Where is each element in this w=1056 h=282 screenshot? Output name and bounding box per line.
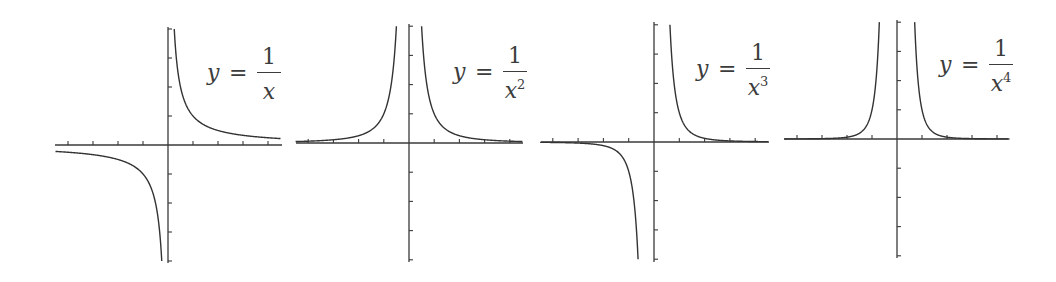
- curve-negative-branch: [296, 26, 397, 141]
- function-plots-figure: [0, 0, 1056, 282]
- fraction: 1 x2: [503, 43, 527, 103]
- curve-negative-branch: [56, 151, 162, 261]
- equals-sign: =: [961, 52, 979, 77]
- curve-negative-branch: [785, 22, 880, 139]
- denominator-base: x: [991, 71, 1003, 96]
- fraction-bar: [257, 72, 281, 73]
- denominator: x2: [503, 73, 527, 103]
- equals-sign: =: [718, 56, 736, 81]
- exponent: 3: [760, 74, 768, 89]
- plot-reciprocal-x: [55, 27, 282, 263]
- numerator: 1: [746, 40, 770, 66]
- exponent: 2: [517, 77, 525, 92]
- equals-sign: =: [229, 60, 247, 85]
- denominator-base: x: [263, 79, 275, 104]
- equation-lhs: y: [453, 59, 465, 84]
- denominator-base: x: [505, 78, 517, 103]
- exponent: 4: [1003, 70, 1011, 85]
- fraction: 1 x3: [746, 40, 770, 100]
- denominator: x: [257, 74, 281, 104]
- fraction-bar: [746, 68, 770, 69]
- numerator: 1: [503, 43, 527, 69]
- equation-lhs: y: [939, 52, 951, 77]
- numerator: 1: [257, 44, 281, 70]
- fraction: 1 x: [257, 44, 281, 104]
- denominator: x4: [989, 66, 1013, 96]
- equals-sign: =: [475, 59, 493, 84]
- fraction-bar: [989, 64, 1013, 65]
- numerator: 1: [989, 36, 1013, 62]
- equation-lhs: y: [207, 60, 219, 85]
- denominator-base: x: [748, 75, 760, 100]
- fraction: 1 x4: [989, 36, 1013, 96]
- curve-negative-branch: [540, 142, 638, 259]
- equation-lhs: y: [696, 56, 708, 81]
- denominator: x3: [746, 70, 770, 100]
- fraction-bar: [503, 71, 527, 72]
